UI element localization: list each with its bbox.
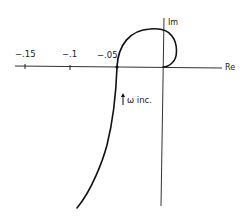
real-axis-label: Re xyxy=(225,64,235,72)
crossing-point xyxy=(115,65,118,68)
imaginary-axis xyxy=(161,18,164,206)
nyquist-plot xyxy=(0,0,247,224)
tick-label-minus-0.05: −.05 xyxy=(97,51,118,60)
imaginary-axis-label: Im xyxy=(168,19,178,27)
tick-label-minus-0.1: −.1 xyxy=(62,50,77,59)
omega-increasing-label: ω inc. xyxy=(127,96,152,105)
up-arrow-icon xyxy=(121,93,125,97)
tick-label-minus-0.15: −.15 xyxy=(15,50,36,59)
